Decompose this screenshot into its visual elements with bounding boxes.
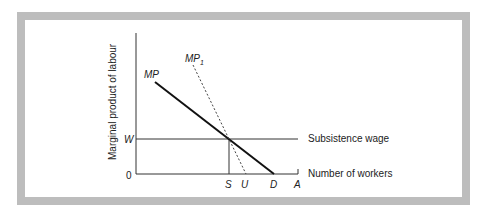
w-label: W — [124, 134, 135, 145]
mp-labour-diagram: Marginal product of labour W 0 MP MP1 Su… — [0, 0, 481, 216]
s-label: S — [225, 179, 232, 190]
y-axis-label: Marginal product of labour — [107, 43, 118, 160]
a-label: A — [293, 179, 301, 190]
d-label: D — [270, 179, 277, 190]
subsistence-wage-label: Subsistence wage — [308, 133, 390, 144]
origin-label: 0 — [126, 170, 132, 181]
u-label: U — [241, 179, 249, 190]
mp-label: MP — [144, 69, 159, 80]
x-axis-label: Number of workers — [308, 168, 392, 179]
mp-curve — [155, 82, 274, 174]
mp1-curve — [193, 65, 246, 174]
mp1-label: MP1 — [185, 53, 204, 66]
